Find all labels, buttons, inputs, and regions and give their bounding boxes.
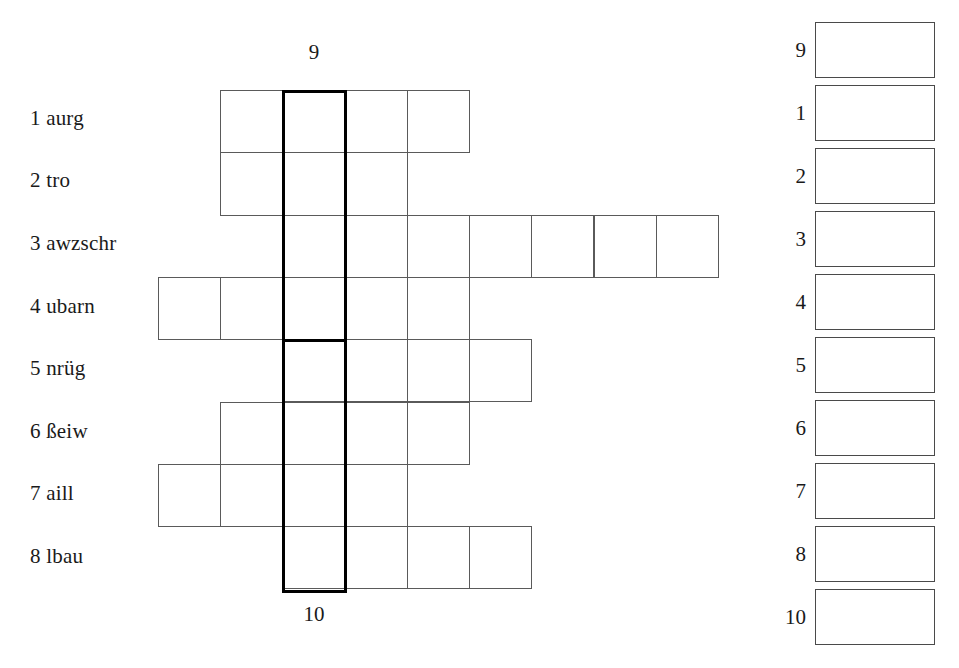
answer-number-8: 8	[760, 526, 806, 582]
answer-box-2[interactable]	[815, 148, 935, 204]
answer-number-7: 7	[760, 463, 806, 519]
answer-row-4: 4	[760, 274, 940, 330]
answer-box-9[interactable]	[815, 22, 935, 78]
answer-box-10[interactable]	[815, 589, 935, 645]
answer-number-9: 9	[760, 22, 806, 78]
answer-number-4: 4	[760, 274, 806, 330]
answer-number-5: 5	[760, 337, 806, 393]
answer-number-2: 2	[760, 148, 806, 204]
answer-row-9: 9	[760, 22, 940, 78]
answer-box-5[interactable]	[815, 337, 935, 393]
answer-panel: 91234567810	[0, 0, 959, 668]
answer-row-3: 3	[760, 211, 940, 267]
answer-row-7: 7	[760, 463, 940, 519]
answer-box-8[interactable]	[815, 526, 935, 582]
answer-row-1: 1	[760, 85, 940, 141]
answer-box-6[interactable]	[815, 400, 935, 456]
answer-number-3: 3	[760, 211, 806, 267]
answer-number-6: 6	[760, 400, 806, 456]
answer-number-1: 1	[760, 85, 806, 141]
answer-box-1[interactable]	[815, 85, 935, 141]
answer-row-2: 2	[760, 148, 940, 204]
answer-number-10: 10	[760, 589, 806, 645]
answer-row-5: 5	[760, 337, 940, 393]
answer-row-6: 6	[760, 400, 940, 456]
answer-box-7[interactable]	[815, 463, 935, 519]
answer-box-4[interactable]	[815, 274, 935, 330]
answer-row-10: 10	[760, 589, 940, 645]
answer-box-3[interactable]	[815, 211, 935, 267]
answer-row-8: 8	[760, 526, 940, 582]
